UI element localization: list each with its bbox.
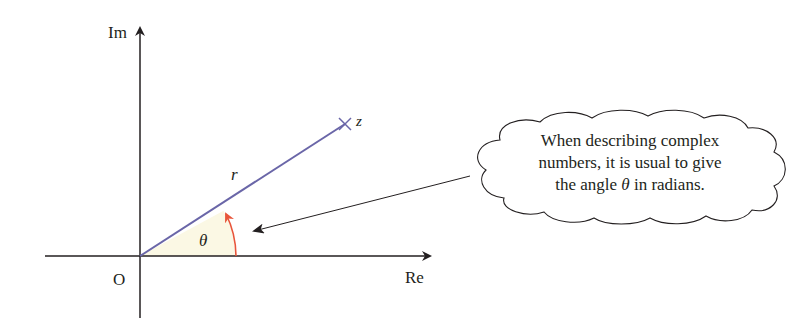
imaginary-axis-label: Im bbox=[108, 23, 127, 42]
callout-line-3-suffix: in radians. bbox=[630, 175, 705, 194]
angle-label: θ bbox=[199, 231, 207, 250]
modulus-line bbox=[140, 124, 345, 256]
callout-text: When describing complex numbers, it is u… bbox=[480, 130, 780, 196]
modulus-label: r bbox=[231, 165, 238, 184]
callout-pointer-arrow bbox=[254, 176, 470, 231]
point-z-label: z bbox=[355, 113, 362, 129]
origin-label: O bbox=[113, 270, 125, 289]
callout-line-1: When describing complex bbox=[480, 130, 780, 152]
angle-sector bbox=[140, 211, 235, 256]
callout-line-2: numbers, it is usual to give bbox=[480, 152, 780, 174]
callout-theta-symbol: θ bbox=[621, 175, 629, 194]
real-axis-label: Re bbox=[405, 268, 424, 287]
callout-line-3: the angle θ in radians. bbox=[480, 174, 780, 196]
point-z-cross-icon bbox=[339, 118, 351, 130]
callout-line-3-prefix: the angle bbox=[555, 175, 621, 194]
